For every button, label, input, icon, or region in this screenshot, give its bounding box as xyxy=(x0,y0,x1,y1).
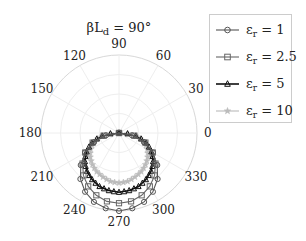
angle-tick-label: 210 xyxy=(31,170,54,184)
angle-tick-label: 270 xyxy=(108,215,131,229)
legend-label: εr = 1 xyxy=(246,22,285,39)
grid-spoke xyxy=(80,65,119,133)
angle-tick-label: 90 xyxy=(111,37,126,51)
angle-tick-label: 240 xyxy=(63,203,86,217)
grid-spoke xyxy=(119,65,158,133)
angle-tick-label: 180 xyxy=(19,126,42,140)
grid-spoke xyxy=(51,94,119,133)
angle-tick-label: 150 xyxy=(31,82,54,96)
legend-label: εr = 5 xyxy=(246,76,285,93)
legend: εr = 1εr = 2.5εr = 5εr = 10 xyxy=(210,15,297,123)
chart-title: βLd = 90° xyxy=(87,20,152,37)
angle-tick-label: 330 xyxy=(185,170,208,184)
angle-tick-label: 0 xyxy=(204,126,212,140)
angle-tick-label: 30 xyxy=(188,82,203,96)
angle-tick-label: 120 xyxy=(63,49,86,63)
polar-chart: βLd = 90° 030609012015018021024027030033… xyxy=(0,0,306,241)
grid-spoke xyxy=(119,94,187,133)
angle-tick-label: 60 xyxy=(156,49,171,63)
angle-tick-label: 300 xyxy=(152,203,175,217)
